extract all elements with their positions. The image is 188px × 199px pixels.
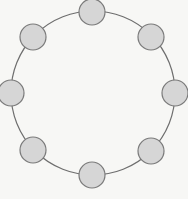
node-top-left [20, 24, 46, 50]
ring-nodes [0, 0, 188, 188]
node-left [0, 80, 24, 106]
node-right [162, 80, 188, 106]
node-top-right [138, 24, 164, 50]
node-top [79, 0, 105, 25]
ring-diagram-canvas [0, 0, 188, 199]
ring-diagram [0, 0, 188, 199]
node-bottom-right [138, 138, 164, 164]
node-bottom-left [20, 137, 46, 163]
node-bottom [79, 162, 105, 188]
